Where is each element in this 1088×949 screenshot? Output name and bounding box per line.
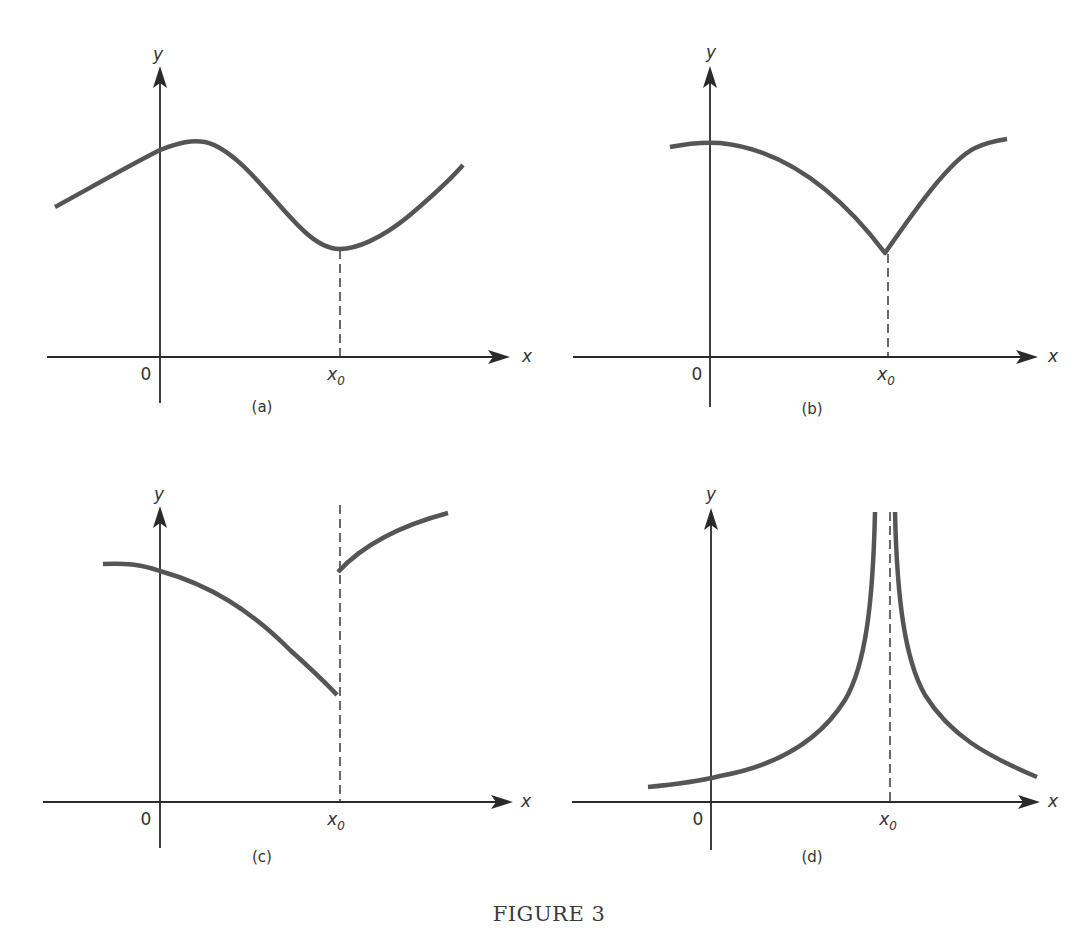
y-axis-label: y bbox=[705, 484, 717, 504]
curve-smooth-minimum bbox=[55, 141, 463, 249]
panel-b: y x 0 x0 (b) bbox=[573, 42, 1059, 418]
figure-title: FIGURE 3 bbox=[493, 902, 606, 926]
x0-label: x0 bbox=[326, 364, 345, 388]
panel-caption: (c) bbox=[252, 848, 272, 866]
x0-label: x0 bbox=[876, 364, 895, 388]
curve-left-branch bbox=[103, 564, 337, 695]
curve-cusp-minimum bbox=[670, 139, 1007, 253]
y-axis-label: y bbox=[153, 484, 165, 504]
curve-right-asymptote-branch bbox=[895, 512, 1037, 777]
panel-a: y x 0 x0 (a) bbox=[47, 44, 533, 416]
panel-caption: (d) bbox=[801, 848, 822, 866]
origin-label: 0 bbox=[693, 809, 704, 829]
panel-d: y x 0 x0 (d) bbox=[572, 484, 1059, 866]
x0-label: x0 bbox=[326, 809, 345, 833]
x-axis-label: x bbox=[520, 791, 532, 811]
x0-label: x0 bbox=[878, 809, 897, 833]
origin-label: 0 bbox=[141, 364, 152, 384]
x-axis-label: x bbox=[1047, 791, 1059, 811]
origin-label: 0 bbox=[692, 364, 703, 384]
panel-c: y x 0 x0 (c) bbox=[43, 484, 532, 866]
curve-right-branch bbox=[338, 513, 448, 572]
panel-caption: (b) bbox=[801, 400, 822, 418]
origin-label: 0 bbox=[141, 809, 152, 829]
figure-canvas: y x 0 x0 (a) y x 0 x0 (b) y x 0 x0 (c) bbox=[0, 0, 1088, 949]
y-axis-label: y bbox=[152, 44, 164, 64]
x-axis-label: x bbox=[521, 346, 533, 366]
curve-left-asymptote-branch bbox=[648, 512, 875, 787]
x-axis-label: x bbox=[1047, 346, 1059, 366]
panel-caption: (a) bbox=[252, 398, 273, 416]
y-axis-label: y bbox=[705, 42, 717, 62]
